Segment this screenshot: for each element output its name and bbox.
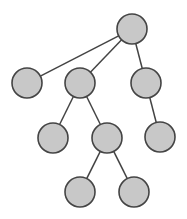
tree-node-b2 [92,123,122,153]
tree-edge-b-b2 [87,96,101,124]
tree-edge-b2-b2a [87,151,101,178]
tree-node-b1 [38,123,68,153]
tree-edge-c-c1 [150,98,156,123]
tree-node-a [12,68,42,98]
tree-edge-b2-b2b [114,151,128,178]
tree-diagram [0,0,187,219]
tree-node-c [131,68,161,98]
tree-node-b [65,68,95,98]
tree-edge-root-c [136,44,142,69]
tree-edges [40,36,156,179]
tree-node-b2a [65,177,95,207]
tree-edge-root-b [90,40,121,72]
tree-edge-b-b1 [60,96,74,124]
tree-node-b2b [119,177,149,207]
tree-node-root [117,14,147,44]
tree-node-c1 [145,122,175,152]
